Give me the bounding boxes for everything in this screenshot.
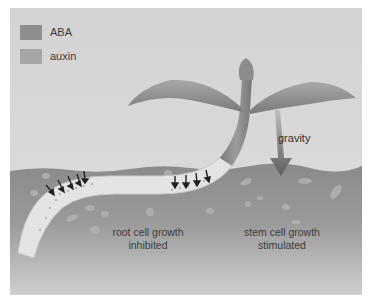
root-growth-label: root cell growth inhibited — [98, 226, 198, 252]
root-label-line2: inhibited — [98, 239, 198, 252]
gravitropism-diagram: ABA auxin gravity root cell growth inhib… — [10, 8, 362, 295]
legend-label-auxin: auxin — [50, 50, 76, 62]
stem-growth-label: stem cell growth stimulated — [232, 226, 332, 252]
legend-label-aba: ABA — [50, 26, 72, 38]
legend-item-aba: ABA — [20, 24, 76, 40]
stem-label-line2: stimulated — [232, 239, 332, 252]
root-label-line1: root cell growth — [98, 226, 198, 239]
legend-item-auxin: auxin — [20, 48, 76, 64]
legend: ABA auxin — [20, 24, 76, 72]
auxin-swatch — [20, 49, 42, 64]
gravity-label: gravity — [278, 132, 310, 145]
stem-label-line1: stem cell growth — [232, 226, 332, 239]
aba-swatch — [20, 25, 42, 40]
